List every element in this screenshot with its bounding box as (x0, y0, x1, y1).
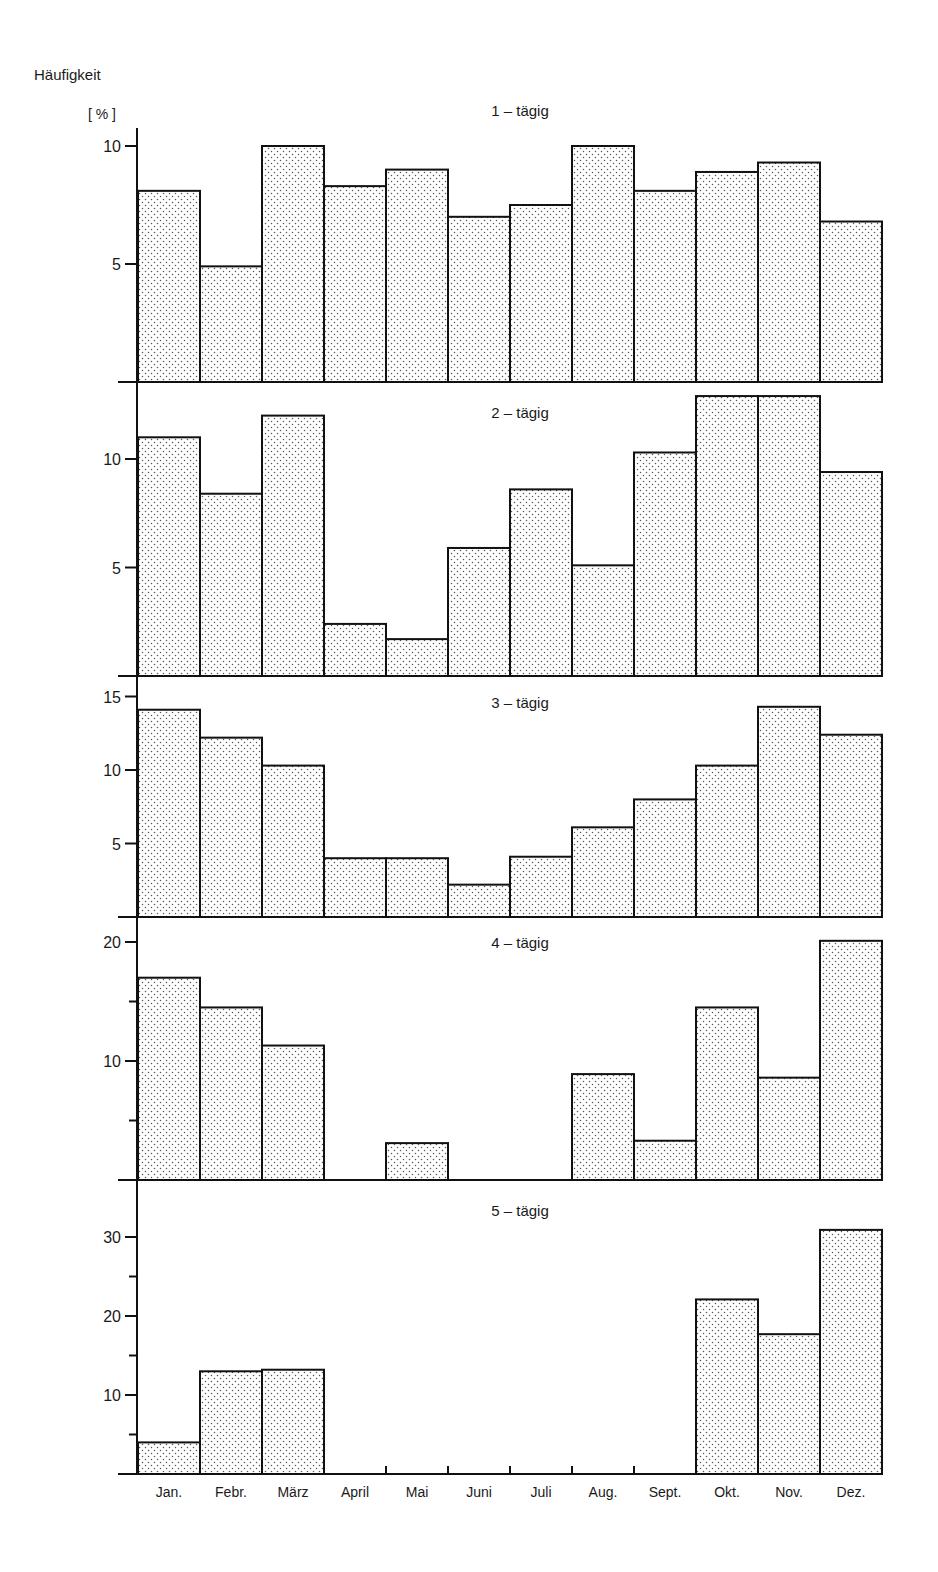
bar-Nov. (758, 1334, 820, 1474)
x-tick-label: Juli (530, 1484, 551, 1500)
x-tick-label: Mai (406, 1484, 429, 1500)
panel-title: 1 – tägig (491, 102, 549, 119)
x-tick-label: Sept. (649, 1484, 682, 1500)
bar-Sept. (634, 1141, 696, 1180)
y-tick-label: 10 (103, 1387, 121, 1404)
bar-Juni (448, 885, 510, 917)
panel-title: 5 – tägig (491, 1202, 549, 1219)
y-tick-label: 20 (103, 934, 121, 951)
panel-1: 1 – tägig510 (103, 102, 882, 382)
bar-Okt. (696, 1007, 758, 1180)
x-tick-label: Dez. (837, 1484, 866, 1500)
bar-Juli (510, 857, 572, 917)
y-tick-label: 10 (103, 451, 121, 468)
bar-Juli (510, 205, 572, 382)
bar-März (262, 766, 324, 917)
y-tick-label: 5 (112, 836, 121, 853)
bar-Jan. (138, 191, 200, 382)
chart-canvas: Häufigkeit [ % ] 1 – tägig5102 – tägig51… (0, 0, 938, 1572)
y-tick-label: 20 (103, 1308, 121, 1325)
bar-April (324, 186, 386, 382)
bar-Sept. (634, 799, 696, 917)
bar-März (262, 1370, 324, 1474)
bar-Febr. (200, 1007, 262, 1180)
bar-Jan. (138, 437, 200, 676)
bar-Mai (386, 639, 448, 676)
x-tick-label: März (277, 1484, 308, 1500)
bar-Juni (448, 548, 510, 676)
panel-title: 3 – tägig (491, 694, 549, 711)
bar-Nov. (758, 1078, 820, 1180)
bar-Aug. (572, 146, 634, 382)
panel-title: 4 – tägig (491, 934, 549, 951)
bar-Dez. (820, 1230, 882, 1474)
bar-Aug. (572, 565, 634, 676)
bar-März (262, 146, 324, 382)
x-tick-label: Juni (466, 1484, 492, 1500)
y-tick-label: 10 (103, 762, 121, 779)
bar-Mai (386, 170, 448, 382)
bar-Aug. (572, 827, 634, 917)
bar-Sept. (634, 191, 696, 382)
bar-Febr. (200, 1371, 262, 1474)
bar-Febr. (200, 738, 262, 917)
panel-3: 3 – tägig51015 (103, 676, 882, 917)
x-tick-label: Jan. (156, 1484, 182, 1500)
bar-Jan. (138, 978, 200, 1180)
bar-Okt. (696, 396, 758, 676)
y-tick-label: 30 (103, 1229, 121, 1246)
panels-group: 1 – tägig5102 – tägig5103 – tägig510154 … (103, 102, 882, 1474)
bar-April (324, 858, 386, 917)
bar-Febr. (200, 266, 262, 382)
bar-Dez. (820, 222, 882, 382)
bar-Nov. (758, 707, 820, 917)
y-axis-title: Häufigkeit (34, 66, 102, 83)
bar-Dez. (820, 941, 882, 1180)
bar-Febr. (200, 494, 262, 676)
bar-Okt. (696, 766, 758, 917)
x-tick-label: Nov. (775, 1484, 803, 1500)
y-tick-label: 15 (103, 689, 121, 706)
panel-4: 4 – tägig1020 (103, 917, 882, 1180)
bar-Sept. (634, 452, 696, 676)
x-tick-label: Okt. (714, 1484, 740, 1500)
bar-Juli (510, 489, 572, 676)
x-tick-label: April (341, 1484, 369, 1500)
y-tick-label: 5 (112, 560, 121, 577)
bar-Jan. (138, 710, 200, 917)
bar-Mai (386, 858, 448, 917)
bar-Okt. (696, 172, 758, 382)
bar-Nov. (758, 396, 820, 676)
y-tick-label: 10 (103, 138, 121, 155)
bar-Aug. (572, 1074, 634, 1180)
bar-Juni (448, 217, 510, 382)
bar-Dez. (820, 472, 882, 676)
panel-title: 2 – tägig (491, 404, 549, 421)
bar-Nov. (758, 163, 820, 382)
panel-2: 2 – tägig510 (103, 382, 882, 676)
frequency-bar-chart: Häufigkeit [ % ] 1 – tägig5102 – tägig51… (0, 0, 938, 1572)
y-axis-unit: [ % ] (88, 106, 116, 122)
bar-April (324, 624, 386, 676)
bar-Mai (386, 1143, 448, 1180)
bar-März (262, 416, 324, 676)
x-axis-labels: Jan.Febr.MärzAprilMaiJuniJuliAug.Sept.Ok… (156, 1484, 866, 1500)
bar-Jan. (138, 1442, 200, 1474)
x-tick-label: Aug. (589, 1484, 618, 1500)
panel-5: 5 – tägig102030 (103, 1180, 882, 1474)
x-tick-label: Febr. (215, 1484, 247, 1500)
bar-Dez. (820, 735, 882, 917)
bar-März (262, 1046, 324, 1180)
y-tick-label: 5 (112, 256, 121, 273)
y-tick-label: 10 (103, 1053, 121, 1070)
bar-Okt. (696, 1299, 758, 1474)
